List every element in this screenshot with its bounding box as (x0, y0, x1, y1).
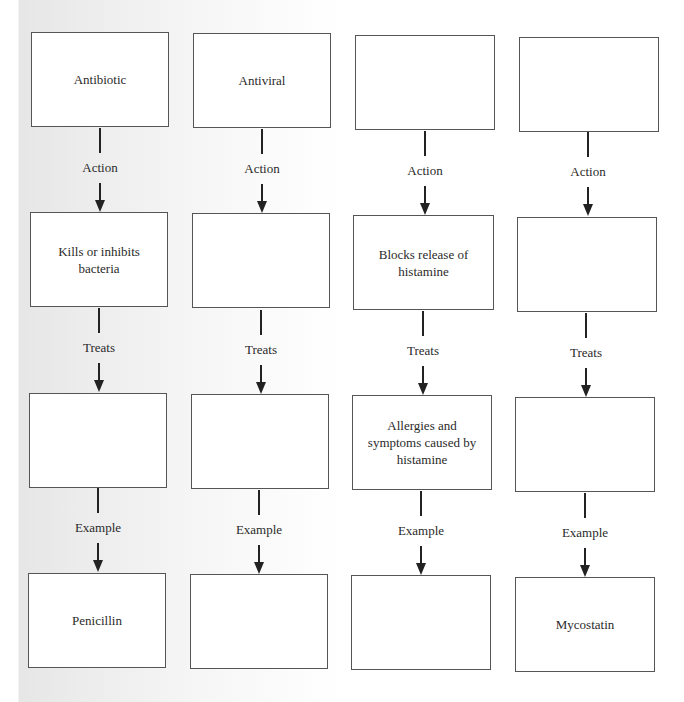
connector-line (98, 308, 100, 333)
connector-label-action: Action (538, 165, 638, 179)
col1-treats-connector: Treats (69, 308, 129, 392)
col3-action-connector: Action (395, 131, 455, 215)
connector-line (422, 366, 424, 384)
col3-action-box[interactable]: Blocks release of histamine (353, 215, 494, 310)
connector-line (585, 313, 587, 338)
arrow-down-icon (581, 385, 591, 397)
col1-example-box[interactable]: Penicillin (28, 573, 166, 668)
connector-line (99, 128, 101, 153)
connector-line (261, 129, 263, 154)
connector-line (422, 311, 424, 336)
connector-line (585, 368, 587, 386)
connector-line (258, 545, 260, 563)
col3-example-connector: Example (391, 491, 451, 575)
arrow-down-icon (94, 380, 104, 392)
col4-class-box[interactable] (519, 37, 659, 132)
connector-line (420, 491, 422, 516)
connector-label-treats: Treats (536, 346, 636, 360)
col1-action-box[interactable]: Kills or inhibits bacteria (30, 212, 168, 307)
connector-line (587, 132, 589, 157)
connector-line (420, 546, 422, 564)
connector-line (97, 488, 99, 513)
col4-example-box[interactable]: Mycostatin (515, 577, 655, 672)
col1-example-connector: Example (68, 488, 128, 572)
col2-class-box[interactable]: Antiviral (193, 33, 331, 128)
connector-line (261, 184, 263, 202)
connector-line (99, 183, 101, 201)
col3-example-box[interactable] (351, 575, 491, 670)
arrow-down-icon (256, 382, 266, 394)
col4-action-box[interactable] (517, 217, 657, 312)
arrow-down-icon (580, 565, 590, 577)
col2-example-connector: Example (229, 490, 289, 574)
col3-treats-connector: Treats (393, 311, 453, 395)
connector-label-action: Action (50, 161, 150, 175)
arrow-down-icon (95, 200, 105, 212)
col2-treats-box[interactable] (191, 394, 329, 489)
arrow-down-icon (254, 562, 264, 574)
col2-class-text: Antiviral (239, 72, 286, 89)
connector-label-example: Example (209, 523, 309, 537)
col1-class-box[interactable]: Antibiotic (31, 32, 169, 127)
arrow-down-icon (93, 560, 103, 572)
col1-treats-box[interactable] (29, 393, 167, 488)
connector-label-treats: Treats (49, 341, 149, 355)
connector-label-treats: Treats (211, 343, 311, 357)
col1-class-text: Antibiotic (74, 71, 127, 88)
arrow-down-icon (420, 203, 430, 215)
col3-class-box[interactable] (355, 35, 495, 130)
col2-treats-connector: Treats (231, 310, 291, 394)
connector-line (424, 131, 426, 156)
col2-action-connector: Action (232, 129, 292, 213)
connector-line (584, 493, 586, 518)
connector-line (584, 548, 586, 566)
arrow-down-icon (418, 383, 428, 395)
col4-example-text: Mycostatin (556, 616, 615, 633)
connector-label-example: Example (535, 526, 635, 540)
col2-action-box[interactable] (192, 213, 330, 308)
col3-treats-box[interactable]: Allergies and symptoms caused by histami… (352, 395, 492, 490)
col1-action-text: Kills or inhibits bacteria (49, 243, 149, 277)
connector-label-treats: Treats (373, 344, 473, 358)
col4-example-connector: Example (555, 493, 615, 577)
arrow-down-icon (583, 204, 593, 216)
connector-line (258, 490, 260, 515)
col4-treats-box[interactable] (515, 397, 655, 492)
connector-line (424, 186, 426, 204)
col1-example-text: Penicillin (72, 612, 122, 629)
arrow-down-icon (416, 563, 426, 575)
connector-line (260, 365, 262, 383)
connector-line (587, 187, 589, 205)
col1-action-connector: Action (70, 128, 130, 212)
arrow-down-icon (257, 201, 267, 213)
col4-action-connector: Action (558, 132, 618, 216)
connector-line (97, 543, 99, 561)
col2-example-box[interactable] (190, 574, 328, 669)
connector-line (98, 363, 100, 381)
col4-treats-connector: Treats (556, 313, 616, 397)
col3-action-text: Blocks release of histamine (374, 246, 474, 280)
connector-line (260, 310, 262, 335)
connector-label-action: Action (212, 162, 312, 176)
connector-label-example: Example (48, 521, 148, 535)
col3-treats-text: Allergies and symptoms caused by histami… (367, 417, 477, 468)
connector-label-example: Example (371, 524, 471, 538)
connector-label-action: Action (375, 164, 475, 178)
